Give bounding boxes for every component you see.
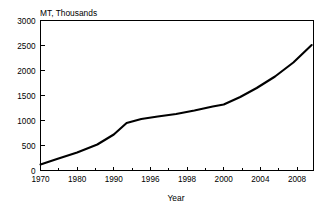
y-tick-label: 3000 bbox=[17, 17, 36, 26]
x-tick-label: 2008 bbox=[288, 175, 307, 184]
x-tick-label: 2004 bbox=[251, 175, 270, 184]
y-tick-label: 2500 bbox=[17, 42, 36, 51]
y-tick-label: 1000 bbox=[17, 117, 36, 126]
y-axis-title: MT, Thousands bbox=[40, 8, 97, 18]
x-tick-label: 1970 bbox=[31, 175, 50, 184]
x-tick-label: 1998 bbox=[178, 175, 197, 184]
chart-container: 050010001500200025003000 197019801990199… bbox=[0, 0, 329, 206]
y-tick-label: 2000 bbox=[17, 67, 36, 76]
x-tick-label: 2000 bbox=[215, 175, 234, 184]
y-tick-label: 1500 bbox=[17, 92, 36, 101]
x-tick-label: 1990 bbox=[105, 175, 124, 184]
x-tick-label: 1980 bbox=[68, 175, 87, 184]
y-tick-label: 500 bbox=[22, 142, 36, 151]
x-axis-title: Year bbox=[168, 193, 185, 203]
line-chart: 050010001500200025003000 197019801990199… bbox=[0, 0, 329, 206]
x-tick-label: 1996 bbox=[141, 175, 160, 184]
